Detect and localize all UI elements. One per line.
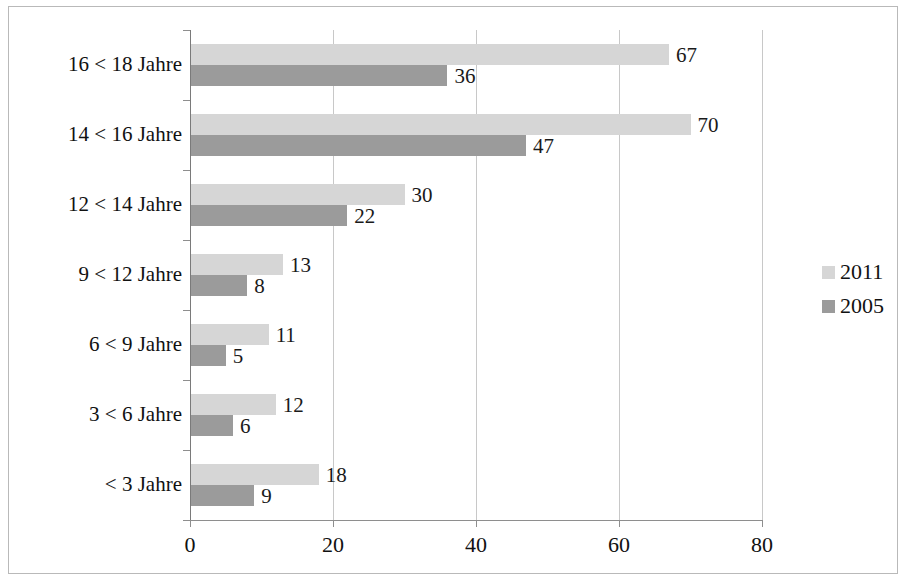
category-axis-line [190,30,191,521]
bar-value-label: 6 [240,416,251,437]
bar-group: 7047 [190,114,762,156]
value-tick-mark [619,520,620,527]
bar-value-label: 18 [326,465,347,486]
bar-2005-1 [190,135,526,156]
category-label: 6 < 9 Jahre [12,334,182,355]
category-tick [183,310,190,311]
gridline [762,30,763,520]
category-label: 14 < 16 Jahre [12,124,182,145]
legend-item-2005[interactable]: 2005 [822,289,900,323]
bar-value-label: 8 [254,276,265,297]
category-tick [183,30,190,31]
legend-label: 2011 [840,261,883,283]
bar-2005-5 [190,415,233,436]
bar-value-label: 22 [354,206,375,227]
value-tick-mark [190,520,191,527]
value-tick-label: 80 [751,533,773,557]
bar-value-label: 12 [283,395,304,416]
value-tick-mark [762,520,763,527]
bar-value-label: 36 [454,66,475,87]
chart-container: 16 < 18 Jahre14 < 16 Jahre12 < 14 Jahre9… [0,0,907,581]
bar-2011-0 [190,44,669,65]
bar-2011-2 [190,184,405,205]
bar-2011-5 [190,394,276,415]
chart-legend: 20112005 [822,255,900,323]
bar-2005-4 [190,345,226,366]
bar-group: 126 [190,394,762,436]
bar-group: 189 [190,464,762,506]
value-axis-ticks: 020406080 [190,527,762,561]
bar-value-label: 30 [412,185,433,206]
bar-group: 3022 [190,184,762,226]
legend-swatch-icon [822,266,835,279]
category-label: 16 < 18 Jahre [12,54,182,75]
legend-label: 2005 [840,295,884,317]
bar-group: 138 [190,254,762,296]
value-tick-label: 0 [185,533,196,557]
bar-2005-2 [190,205,347,226]
bar-2011-4 [190,324,269,345]
category-axis-labels: 16 < 18 Jahre14 < 16 Jahre12 < 14 Jahre9… [8,30,182,520]
value-tick-label: 40 [465,533,487,557]
plot-area: 673670473022138115126189 [190,30,762,520]
bar-value-label: 9 [261,486,272,507]
category-tick [183,520,190,521]
category-tick [183,240,190,241]
category-label: 12 < 14 Jahre [12,194,182,215]
bar-2005-3 [190,275,247,296]
category-tick [183,100,190,101]
category-tick [183,450,190,451]
bar-2005-6 [190,485,254,506]
bar-2011-1 [190,114,691,135]
bar-group: 6736 [190,44,762,86]
category-label: 3 < 6 Jahre [12,404,182,425]
legend-swatch-icon [822,300,835,313]
bar-2011-6 [190,464,319,485]
bar-group: 115 [190,324,762,366]
bar-value-label: 47 [533,136,554,157]
bar-value-label: 70 [698,115,719,136]
bar-2005-0 [190,65,447,86]
bar-value-label: 11 [276,325,296,346]
value-tick-mark [333,520,334,527]
value-tick-label: 20 [322,533,344,557]
category-label: 9 < 12 Jahre [12,264,182,285]
category-tick [183,170,190,171]
category-tick [183,380,190,381]
category-label: < 3 Jahre [12,474,182,495]
bar-value-label: 13 [290,255,311,276]
bar-2011-3 [190,254,283,275]
value-tick-mark [476,520,477,527]
value-tick-label: 60 [608,533,630,557]
bar-value-label: 67 [676,45,697,66]
legend-item-2011[interactable]: 2011 [822,255,900,289]
bar-value-label: 5 [233,346,244,367]
